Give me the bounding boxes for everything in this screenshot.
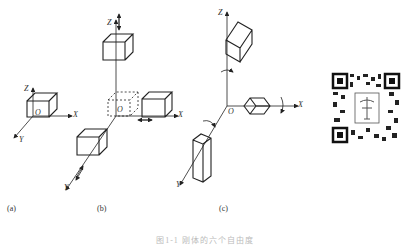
panel-a-y-label: Y <box>19 135 23 144</box>
panel-c-z-label: Z <box>218 8 222 17</box>
panel-c-origin-label: O <box>228 107 234 116</box>
panel-b-y-label: Y <box>64 183 68 192</box>
panel-b-diagram <box>66 14 178 190</box>
panel-a-origin-label: O <box>35 108 41 117</box>
panel-b-origin-label: O <box>117 105 123 114</box>
panel-b-z-label: Z <box>107 18 111 27</box>
panel-c-diagram <box>180 12 298 185</box>
panel-a-z-label: Z <box>24 84 28 93</box>
figure-caption: 图1-1 刚体的六个自由度 <box>120 234 290 245</box>
figure-canvas <box>0 0 412 245</box>
panel-b-x-label: X <box>178 110 183 119</box>
panel-c-x-label: X <box>298 100 303 109</box>
panel-c-y-label: Y <box>176 180 180 189</box>
panel-b-caption: (b) <box>97 204 106 213</box>
panel-c-caption: (c) <box>219 204 228 213</box>
panel-a-caption: (a) <box>7 204 16 213</box>
qr-code <box>331 72 401 144</box>
panel-a-diagram <box>14 88 72 138</box>
panel-a-x-label: X <box>73 110 78 119</box>
